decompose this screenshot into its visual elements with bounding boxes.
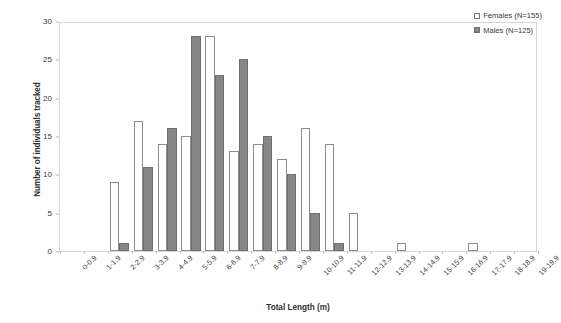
bar-group [227,23,251,251]
x-axis-tick-label: 11-11.9 [346,254,368,276]
bar-male [334,243,344,251]
bar-male [239,59,249,251]
x-axis-tick-label: 13-13.9 [394,254,417,277]
y-axis-tick-mark [56,98,59,99]
y-axis-tick-30: 30 [26,18,52,26]
bar-male [143,167,153,251]
y-axis-tick-20: 20 [26,95,52,103]
y-axis-tick-mark [56,22,59,23]
bar-group [395,23,419,251]
bar-male [215,75,225,251]
x-axis-tick-label: 0-0.9 [81,254,98,271]
x-axis-tick-labels: 0-0.91-1.92-2.93-3.94-4.95-5.96-6.97-7.9… [59,254,537,298]
y-axis-tick-10: 10 [26,171,52,179]
x-axis-tick-label: 3-3.9 [153,254,170,271]
x-axis-tick-label: 17-17.9 [490,254,513,277]
bar-male [119,243,129,251]
bar-group [251,23,275,251]
y-axis-tick-mark [56,252,59,253]
legend-swatch-female-icon [474,13,480,19]
bar-female [158,144,168,251]
bar-female [110,182,120,251]
y-axis-tick-5: 5 [26,210,52,218]
bar-group [514,23,538,251]
bar-group [442,23,466,251]
x-axis-tick-label: 12-12.9 [370,254,393,277]
bar-group [466,23,490,251]
x-axis-tick-label: 5-5.9 [201,254,218,271]
y-axis-tick-labels: 051015202530 [26,22,52,252]
bar-female [205,36,215,251]
bar-group [419,23,443,251]
legend-item: Males (N=125) [474,27,542,35]
bar-group [275,23,299,251]
x-axis-tick-label: 10-10.9 [323,254,346,277]
legend-item: Females (N=155) [474,12,542,20]
x-axis-tick-label: 15-15.9 [442,254,465,277]
y-axis-tick-mark [56,213,59,214]
bar-female [468,243,478,251]
legend-item-label: Females (N=155) [483,12,542,20]
x-axis-tick-label: 6-6.9 [225,254,242,271]
legend-item-label: Males (N=125) [483,27,533,35]
x-axis-tick-label: 4-4.9 [177,254,194,271]
x-axis-tick-mark [538,251,539,254]
chart-legend: Females (N=155)Males (N=125) [474,12,542,41]
bar-group [156,23,180,251]
x-axis-tick-label: 18-18.9 [514,254,537,277]
y-axis-tick-mark [56,137,59,138]
bar-female [181,136,191,251]
bar-group [371,23,395,251]
bar-group [180,23,204,251]
bar-group [323,23,347,251]
x-axis-tick-label: 16-16.9 [466,254,489,277]
bar-female [277,159,287,251]
legend-swatch-male-icon [474,27,480,33]
x-axis-tick-label: 9-9.9 [296,254,313,271]
bar-group [490,23,514,251]
y-axis-tick-mark [56,60,59,61]
y-axis-tick-0: 0 [26,248,52,256]
bar-female [397,243,407,251]
bar-male [263,136,273,251]
bar-female [325,144,335,251]
x-axis-tick-label: 8-8.9 [272,254,289,271]
bar-male [310,213,320,251]
x-axis-tick-label: 1-1.9 [105,254,122,271]
bar-male [287,174,297,251]
y-axis-tick-25: 25 [26,56,52,64]
y-axis-tick-mark [56,175,59,176]
bar-group [299,23,323,251]
bars-container [60,23,536,251]
plot-area [59,22,537,252]
bar-female [229,151,239,251]
bar-female [253,144,263,251]
bar-female [349,213,359,251]
x-axis-title: Total Length (m) [59,303,537,312]
bar-male [167,128,177,251]
x-axis-tick-label: 19-19.9 [538,254,561,277]
bar-group [60,23,84,251]
x-axis-tick-label: 14-14.9 [418,254,441,277]
bar-group [347,23,371,251]
bar-female [134,121,144,251]
bar-group [132,23,156,251]
bar-group [203,23,227,251]
x-axis-tick-label: 7-7.9 [248,254,265,271]
x-axis-tick-label: 2-2.9 [129,254,146,271]
bar-group [84,23,108,251]
y-axis-tick-15: 15 [26,133,52,141]
bar-group [108,23,132,251]
bar-female [301,128,311,251]
bar-male [191,36,201,251]
